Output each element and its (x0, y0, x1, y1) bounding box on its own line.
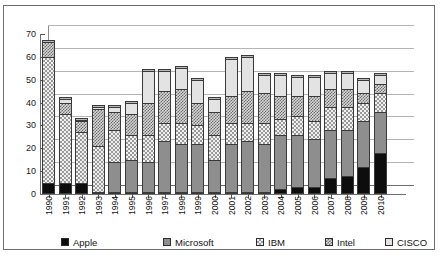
bar-segment-cisco-1998[interactable] (175, 68, 188, 89)
bar-segment-microsoft-2006[interactable] (308, 139, 321, 187)
bar-segment-ibm-2005[interactable] (291, 116, 304, 134)
bar-segment-ibm-2001[interactable] (225, 123, 238, 144)
bar-segment-ibm-2006[interactable] (308, 121, 321, 139)
bar-group-2004[interactable] (274, 25, 287, 194)
bar-group-2001[interactable] (225, 25, 238, 194)
bar-group-1991[interactable] (59, 25, 72, 194)
bar-segment-cisco-2006[interactable] (308, 77, 321, 95)
bar-segment-microsoft-1996[interactable] (142, 162, 155, 192)
bar-group-2002[interactable] (241, 25, 254, 194)
bar-segment-ibm-1991[interactable] (59, 114, 72, 183)
bar-segment-intel-2002[interactable] (241, 91, 254, 123)
bar-segment-microsoft-1994[interactable] (108, 162, 121, 192)
bar-segment-cisco-2000[interactable] (208, 99, 221, 112)
bar-segment-intel-1999[interactable] (191, 103, 204, 126)
bar-segment-intel-2009[interactable] (357, 93, 370, 102)
bar-segment-apple-2006[interactable] (308, 187, 321, 194)
bar-segment-cisco-1997[interactable] (158, 71, 171, 92)
bar-segment-intel-1992[interactable] (75, 121, 88, 132)
bar-group-2000[interactable] (208, 25, 221, 194)
bar-segment-ibm-1993[interactable] (92, 146, 105, 192)
bar-group-2008[interactable] (341, 25, 354, 194)
bar-segment-ibm-2000[interactable] (208, 135, 221, 160)
bar-segment-apple-1992[interactable] (75, 183, 88, 194)
bar-segment-ibm-2009[interactable] (357, 103, 370, 121)
bar-segment-ibm-1990[interactable] (42, 57, 55, 183)
bar-segment-microsoft-2004[interactable] (274, 135, 287, 190)
bar-segment-apple-2005[interactable] (291, 187, 304, 194)
bar-segment-intel-1993[interactable] (92, 109, 105, 146)
bar-segment-intel-2004[interactable] (274, 96, 287, 119)
bar-segment-ibm-1998[interactable] (175, 123, 188, 144)
bar-group-2010[interactable] (374, 25, 387, 194)
bar-segment-microsoft-1997[interactable] (158, 141, 171, 191)
bar-segment-ibm-1995[interactable] (125, 135, 138, 160)
bar-segment-ibm-1999[interactable] (191, 125, 204, 143)
bar-group-2005[interactable] (291, 25, 304, 194)
bar-segment-cisco-1999[interactable] (191, 80, 204, 103)
bar-segment-intel-2010[interactable] (374, 84, 387, 93)
bar-segment-ibm-2010[interactable] (374, 93, 387, 111)
bar-segment-apple-1990[interactable] (42, 183, 55, 194)
bar-segment-intel-1997[interactable] (158, 91, 171, 123)
bar-segment-intel-2007[interactable] (324, 89, 337, 107)
bar-group-1999[interactable] (191, 25, 204, 194)
bar-segment-intel-1995[interactable] (125, 114, 138, 135)
bar-segment-cisco-2001[interactable] (225, 59, 238, 96)
bar-segment-microsoft-2001[interactable] (225, 144, 238, 192)
legend-item-cisco[interactable]: CISCO (385, 238, 427, 247)
bar-segment-apple-2008[interactable] (341, 176, 354, 194)
bar-segment-cisco-2004[interactable] (274, 75, 287, 96)
bar-segment-cisco-2007[interactable] (324, 73, 337, 89)
bar-segment-microsoft-2003[interactable] (258, 144, 271, 192)
legend-item-intel[interactable]: Intel (325, 238, 355, 247)
bar-segment-cisco-2008[interactable] (341, 73, 354, 89)
bar-segment-ibm-2007[interactable] (324, 107, 337, 130)
bar-group-1995[interactable] (125, 25, 138, 194)
bar-segment-microsoft-2009[interactable] (357, 121, 370, 167)
legend-item-apple[interactable]: Apple (61, 238, 97, 247)
bar-segment-ibm-1996[interactable] (142, 135, 155, 162)
bar-segment-intel-2003[interactable] (258, 93, 271, 123)
bar-segment-intel-2001[interactable] (225, 96, 238, 123)
bar-segment-cisco-2010[interactable] (374, 75, 387, 84)
bar-segment-intel-1998[interactable] (175, 89, 188, 123)
bar-segment-ibm-2002[interactable] (241, 123, 254, 141)
bar-segment-intel-1990[interactable] (42, 42, 55, 57)
bar-segment-microsoft-2000[interactable] (208, 160, 221, 192)
bar-segment-apple-2009[interactable] (357, 167, 370, 194)
legend-item-microsoft[interactable]: Microsoft (163, 238, 214, 247)
bar-segment-ibm-2008[interactable] (341, 107, 354, 130)
bar-segment-cisco-1996[interactable] (142, 71, 155, 103)
bar-segment-microsoft-1999[interactable] (191, 144, 204, 192)
bar-group-1993[interactable] (92, 25, 105, 194)
bar-segment-apple-1991[interactable] (59, 183, 72, 194)
bar-group-1998[interactable] (175, 25, 188, 194)
bar-group-1990[interactable] (42, 25, 55, 194)
bar-segment-microsoft-2005[interactable] (291, 135, 304, 188)
bar-segment-ibm-2004[interactable] (274, 119, 287, 135)
bar-group-2009[interactable] (357, 25, 370, 194)
bar-segment-cisco-2002[interactable] (241, 57, 254, 91)
bar-segment-intel-2005[interactable] (291, 96, 304, 117)
bar-segment-cisco-2005[interactable] (291, 77, 304, 95)
bar-group-1997[interactable] (158, 25, 171, 194)
bar-group-2003[interactable] (258, 25, 271, 194)
bar-segment-microsoft-2010[interactable] (374, 112, 387, 153)
bar-segment-ibm-2003[interactable] (258, 123, 271, 144)
bar-segment-apple-2010[interactable] (374, 153, 387, 194)
bar-group-1994[interactable] (108, 25, 121, 194)
bar-group-2006[interactable] (308, 25, 321, 194)
bar-group-2007[interactable] (324, 25, 337, 194)
legend-item-ibm[interactable]: IBM (256, 238, 285, 247)
bar-segment-intel-1994[interactable] (108, 112, 121, 130)
bar-segment-intel-2000[interactable] (208, 112, 221, 135)
bar-segment-microsoft-2008[interactable] (341, 130, 354, 176)
bar-group-1992[interactable] (75, 25, 88, 194)
bar-segment-cisco-2003[interactable] (258, 75, 271, 93)
bar-segment-cisco-1995[interactable] (125, 103, 138, 114)
bar-segment-microsoft-1998[interactable] (175, 144, 188, 192)
bar-segment-intel-2008[interactable] (341, 89, 354, 107)
bar-segment-intel-1991[interactable] (59, 103, 72, 114)
bar-segment-ibm-1997[interactable] (158, 123, 171, 141)
